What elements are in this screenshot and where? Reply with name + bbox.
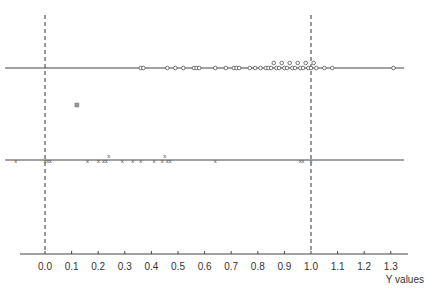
circle-marker: [248, 66, 252, 70]
x-axis: 0.00.10.20.30.40.50.60.70.80.91.01.11.21…: [20, 251, 408, 272]
x-marker: x: [153, 158, 156, 164]
circle-marker: [224, 66, 228, 70]
tick-label: 0.8: [251, 261, 265, 272]
x-marker: x: [121, 158, 124, 164]
circle-marker: [323, 66, 327, 70]
circle-marker: [312, 61, 316, 65]
tick-label: 0.1: [65, 261, 79, 272]
circle-marker: [142, 66, 146, 70]
circle-marker: [392, 66, 396, 70]
tick-label: 0.7: [224, 261, 238, 272]
tick-label: 0.9: [277, 261, 291, 272]
data-rows: xxxxxxxxxxxxxxxxxxxxx: [5, 61, 404, 163]
tick-label: 0.4: [144, 261, 158, 272]
circle-marker: [182, 66, 186, 70]
circle-marker: [330, 66, 334, 70]
tick-label: 1.3: [384, 261, 398, 272]
x-marker: x: [131, 158, 134, 164]
tick-label: 1.0: [304, 261, 318, 272]
tick-label: 0.0: [38, 261, 52, 272]
circle-marker: [277, 66, 281, 70]
circle-marker: [237, 66, 241, 70]
circle-marker: [293, 66, 297, 70]
circle-marker: [253, 66, 257, 70]
circle-marker: [315, 66, 319, 70]
circle-marker: [174, 66, 178, 70]
circle-marker: [288, 61, 292, 65]
x-marker: x: [169, 158, 172, 164]
circle-marker: [166, 66, 170, 70]
x-marker: x: [14, 158, 17, 164]
tick-label: 0.6: [198, 261, 212, 272]
x-marker: x: [107, 153, 110, 159]
tick-label: 0.5: [171, 261, 185, 272]
circle-marker: [272, 61, 276, 65]
circle-marker: [296, 61, 300, 65]
x-marker: x: [214, 158, 217, 164]
circle-marker: [213, 66, 217, 70]
tick-label: 1.2: [357, 261, 371, 272]
outlier-marker: [75, 103, 79, 107]
circle-marker: [269, 66, 273, 70]
circle-marker: [301, 66, 305, 70]
reference-lines: [45, 15, 311, 252]
circle-marker: [285, 66, 289, 70]
circle-marker: [197, 66, 201, 70]
circle-marker: [309, 66, 313, 70]
x-marker: x: [86, 158, 89, 164]
circle-marker: [280, 61, 284, 65]
circle-marker: [304, 61, 308, 65]
circle-marker: [259, 66, 263, 70]
strip-chart: xxxxxxxxxxxxxxxxxxxxx 0.00.10.20.30.40.5…: [0, 0, 428, 297]
x-marker: x: [97, 158, 100, 164]
tick-label: 1.1: [331, 261, 345, 272]
x-marker: x: [139, 158, 142, 164]
tick-label: 0.3: [118, 261, 132, 272]
tick-label: 0.2: [91, 261, 105, 272]
x-marker: x: [310, 158, 313, 164]
x-axis-title: Y values: [386, 274, 424, 285]
x-marker: x: [49, 158, 52, 164]
x-marker: x: [302, 158, 305, 164]
